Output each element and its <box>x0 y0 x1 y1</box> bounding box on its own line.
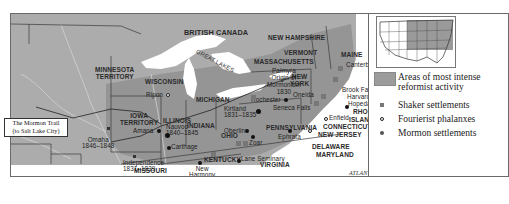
legend: Areas of most intense reformist activity… <box>368 14 508 176</box>
shaker-marker <box>236 141 241 146</box>
shaker-marker <box>251 95 256 100</box>
label-ripon: Ripon <box>146 92 163 98</box>
shaker-marker <box>243 141 248 146</box>
label-new-harmony: New Harmony <box>189 166 215 177</box>
label-massachusetts: MASSACHUSETTS <box>254 59 314 66</box>
mormon-marker-nauvoo <box>165 133 170 138</box>
shaker-marker <box>338 66 343 71</box>
shaker-marker <box>314 101 319 106</box>
mormon-dot-icon <box>380 131 384 135</box>
label-seneca-falls: Seneca Falls <box>273 105 311 111</box>
reform-area-swatch <box>374 72 396 86</box>
marker-zoar <box>251 135 255 139</box>
label-ephrata: Ephrata <box>278 134 301 140</box>
label-kentucky: KENTUCKY <box>204 157 241 164</box>
mormon-marker-omaha <box>107 127 110 130</box>
fourierist-marker <box>308 129 312 133</box>
label-kirtland: Kirtland 1831–1835 <box>224 106 256 119</box>
label-maryland: MARYLAND <box>316 152 354 159</box>
mormon-marker-independence <box>133 155 136 158</box>
label-nauvoo: Nauvoo 1840–1845 <box>166 124 198 137</box>
usa-inset-map <box>376 16 456 68</box>
mormon-marker-amana <box>157 129 161 133</box>
label-new-jersey: NEW JERSEY <box>318 132 362 139</box>
label-zoar: Zoar <box>249 140 262 146</box>
mormon-trail-callout: The Mormon Trail (to Salt Lake City) <box>4 118 68 137</box>
shaker-square-icon <box>380 103 384 107</box>
label-lane-seminary: Lane Seminary <box>241 156 285 162</box>
label-vermont: VERMONT <box>284 50 317 57</box>
shaker-marker <box>211 152 216 157</box>
marker-oberlin <box>245 129 249 133</box>
legend-item-shaker: Shaker settlements <box>398 100 470 110</box>
fourierist-circle-icon <box>380 117 384 121</box>
legend-item-fourierist: Fourierist phalanxes <box>398 114 475 124</box>
label-michigan: MICHIGAN <box>196 97 230 104</box>
label-minnesota: MINNESOTA TERRITORY <box>95 67 134 80</box>
label-wisconsin: WISCONSIN <box>145 79 183 86</box>
label-independence: Independence 1831–1839 <box>123 160 164 173</box>
label-delaware: DELAWARE <box>312 144 350 151</box>
shaker-marker <box>333 77 338 82</box>
legend-item-mormon: Mormon settlements <box>398 128 476 138</box>
label-amana: Amana <box>133 128 153 134</box>
shaker-marker <box>321 94 326 99</box>
mormon-marker-kirtland <box>256 109 261 114</box>
marker-ephrata <box>288 129 292 133</box>
label-omaha: Omaha 1846–1848 <box>82 137 114 150</box>
label-enfield: Enfield <box>329 115 349 121</box>
marker-new-harmony <box>198 161 202 165</box>
mormon-marker-carthage <box>167 146 171 150</box>
marker-hopedale <box>345 105 349 109</box>
label-carthage: Carthage <box>171 144 198 150</box>
label-oneida: Oneida <box>293 92 314 98</box>
marker-lane-seminary <box>237 159 241 163</box>
label-iowa: IOWA TERRITORY <box>120 113 158 126</box>
label-virginia: VIRGINIA <box>260 162 290 169</box>
label-connecticut: CONNECTICUT <box>323 124 371 131</box>
legend-item-reform-area: Areas of most intense reformist activity <box>398 72 481 92</box>
label-maine: MAINE <box>341 52 362 59</box>
label-new-hampshire: NEW HAMPSHIRE <box>268 35 325 42</box>
label-british-canada: BRITISH CANADA <box>184 29 248 36</box>
usa-outline-icon <box>377 17 455 67</box>
fourierist-marker-ripon <box>166 93 170 97</box>
fourierist-marker <box>324 117 328 121</box>
marker-rochester <box>284 98 288 102</box>
label-oberlin: Oberlin <box>224 128 245 134</box>
